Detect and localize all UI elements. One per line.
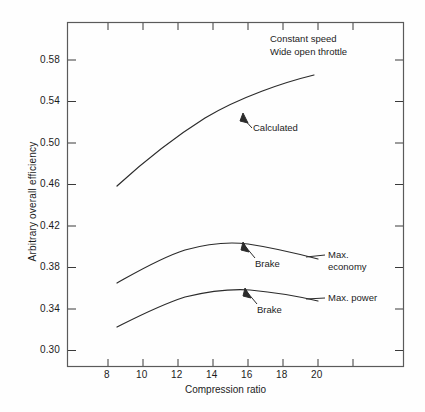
annotation-brake-power: Brake <box>257 304 282 316</box>
x-tick-label-12: 12 <box>171 369 182 380</box>
efficiency-vs-compression-ratio-figure: 8 10 12 14 16 18 20 0.58 0.54 0.50 0.46 … <box>0 0 425 412</box>
annotation-max-power: Max. power <box>328 292 377 304</box>
plot-svg <box>0 0 425 412</box>
y-tick-label-034: 0.34 <box>40 303 60 314</box>
y-tick-label-046: 0.46 <box>40 178 60 189</box>
y-axis-ticks-right <box>395 60 403 351</box>
y-axis-title: Arbitrary overall efficiency <box>27 107 38 297</box>
x-axis-ticks-bottom <box>108 359 353 366</box>
annotation-brake-economy: Brake <box>255 258 280 270</box>
x-tick-label-16: 16 <box>241 369 252 380</box>
leader-max-power <box>306 298 325 299</box>
x-tick-label-8: 8 <box>104 369 110 380</box>
y-tick-label-050: 0.50 <box>40 137 60 148</box>
annotation-calculated: Calculated <box>253 122 298 134</box>
x-tick-label-14: 14 <box>206 369 217 380</box>
curve-brake-max-power <box>117 290 318 327</box>
y-tick-label-058: 0.58 <box>40 54 60 65</box>
y-tick-label-030: 0.30 <box>40 344 60 355</box>
leader-calculated <box>240 113 252 128</box>
y-axis-ticks-left <box>68 60 76 351</box>
y-tick-label-042: 0.42 <box>40 220 60 231</box>
curve-brake-max-economy <box>117 243 318 283</box>
x-tick-label-18: 18 <box>276 369 287 380</box>
y-tick-label-054: 0.54 <box>40 95 60 106</box>
x-tick-label-20: 20 <box>311 369 322 380</box>
annotation-max-economy-line1: Max. <box>328 249 349 261</box>
x-axis-ticks-top <box>108 23 353 30</box>
annotation-max-economy-line2: economy <box>328 261 367 273</box>
annotation-wide-open-throttle: Wide open throttle <box>270 46 347 58</box>
leader-max-economy <box>306 255 325 257</box>
x-axis-title: Compression ratio <box>185 384 266 395</box>
y-tick-label-038: 0.38 <box>40 261 60 272</box>
x-tick-label-10: 10 <box>136 369 147 380</box>
annotation-constant-speed: Constant speed <box>270 33 337 45</box>
plot-frame <box>68 23 404 367</box>
